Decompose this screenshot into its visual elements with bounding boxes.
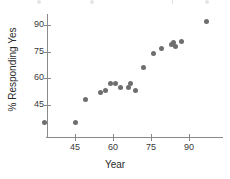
- data-point: [179, 39, 184, 44]
- y-tick: [44, 105, 51, 106]
- x-tick: [75, 134, 76, 141]
- y-axis-line: [47, 14, 48, 138]
- data-point: [133, 88, 138, 93]
- x-tick: [113, 134, 114, 141]
- data-point: [83, 97, 88, 102]
- y-tick: [44, 25, 51, 26]
- data-point: [141, 65, 146, 70]
- x-axis-title: Year: [0, 159, 230, 170]
- y-tick: [44, 52, 51, 53]
- cropped-fragment: [205, 0, 209, 4]
- x-axis-line: [46, 137, 223, 138]
- data-point: [128, 81, 133, 86]
- y-tick-label: 90: [34, 20, 44, 29]
- data-point: [118, 85, 123, 90]
- cropped-fragment: [37, 0, 41, 4]
- data-point: [103, 88, 108, 93]
- x-tick-label: 90: [177, 143, 201, 152]
- x-tick-label: 60: [101, 143, 125, 152]
- data-point: [73, 120, 78, 125]
- x-tick: [151, 134, 152, 141]
- cropped-fragment: [90, 0, 94, 4]
- y-tick: [44, 78, 51, 79]
- y-tick-label: 75: [34, 47, 44, 56]
- y-tick-label: 60: [34, 73, 44, 82]
- x-tick-label: 45: [63, 143, 87, 152]
- y-tick-label: 45: [34, 100, 44, 109]
- x-tick-label: 75: [139, 143, 163, 152]
- data-point: [151, 51, 156, 56]
- data-point: [173, 44, 178, 49]
- scatter-chart: 45607590 45607590 % Responding Yes Year: [0, 0, 230, 179]
- cropped-fragment: [172, 0, 173, 4]
- y-axis-title: % Responding Yes: [7, 15, 18, 125]
- data-point: [159, 46, 164, 51]
- x-tick: [189, 134, 190, 141]
- data-point: [204, 19, 209, 24]
